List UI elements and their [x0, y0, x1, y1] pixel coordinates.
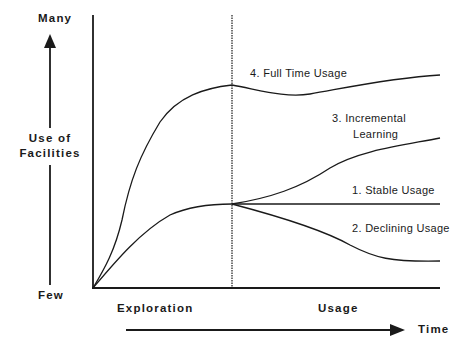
y-axis-title-line1: Use of: [20, 132, 80, 144]
y-axis-bottom-label: Few: [38, 289, 64, 301]
curve-label-incremental-line2: Learning: [353, 128, 398, 140]
curve-label-declining-usage: 2. Declining Usage: [352, 222, 450, 234]
y-axis-title-line2: Facilities: [10, 147, 90, 159]
curve-label-incremental-line1: 3. Incremental: [332, 112, 406, 124]
y-axis-top-label: Many: [38, 12, 72, 24]
arrow-right-icon: [390, 324, 405, 336]
diagram-canvas: [0, 0, 471, 345]
phase-label-exploration: Exploration: [117, 302, 193, 314]
curve-label-stable-usage: 1. Stable Usage: [352, 184, 435, 196]
time-label: Time: [418, 323, 449, 335]
curve-label-full-time-usage: 4. Full Time Usage: [250, 67, 347, 79]
arrow-up-icon: [44, 34, 56, 48]
curve-full-time-usage: [93, 75, 440, 288]
phase-label-usage: Usage: [318, 302, 359, 314]
